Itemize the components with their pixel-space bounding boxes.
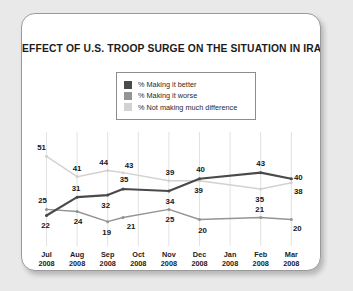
x-axis-tick-label: Nov2008 bbox=[161, 250, 177, 269]
x-axis-tick-label: Dec2008 bbox=[191, 250, 207, 269]
data-point-label: 31 bbox=[72, 184, 81, 193]
series-point bbox=[198, 218, 201, 221]
series-point bbox=[167, 179, 170, 182]
data-point-label: 22 bbox=[41, 220, 50, 229]
x-axis-tick-label: Feb2008 bbox=[253, 250, 269, 269]
x-tick-year: 2008 bbox=[222, 259, 238, 268]
series-point bbox=[45, 155, 48, 158]
series-point bbox=[122, 187, 125, 190]
data-point-label: 38 bbox=[294, 186, 303, 195]
data-point-label: 25 bbox=[166, 215, 175, 224]
data-point-label: 20 bbox=[293, 223, 302, 232]
x-tick-year: 2008 bbox=[100, 259, 116, 268]
data-point-label: 21 bbox=[255, 204, 264, 213]
series-point bbox=[76, 175, 79, 178]
data-point-label: 35 bbox=[120, 174, 129, 183]
data-point-label: 39 bbox=[166, 167, 175, 176]
data-point-label: 32 bbox=[101, 201, 110, 210]
series-point bbox=[76, 196, 79, 199]
x-axis-tick-label: Mar2008 bbox=[283, 250, 299, 269]
x-tick-month: Sep bbox=[100, 250, 116, 259]
series-point bbox=[45, 208, 48, 211]
x-axis-tick-label: Jul2008 bbox=[38, 250, 54, 269]
x-axis-tick-label: Aug2008 bbox=[69, 250, 85, 269]
data-point-label: 40 bbox=[294, 172, 303, 181]
x-tick-month: Feb bbox=[253, 250, 269, 259]
data-point-label: 40 bbox=[196, 164, 205, 173]
x-tick-month: Aug bbox=[69, 250, 85, 259]
data-point-label: 35 bbox=[255, 194, 264, 203]
x-axis-tick-label: Sep2008 bbox=[100, 250, 116, 269]
plot-area: 2231323534404340252419212520212051414443… bbox=[22, 14, 321, 271]
x-tick-year: 2008 bbox=[130, 259, 146, 268]
x-tick-month: Jan bbox=[222, 250, 238, 259]
data-point-label: 43 bbox=[256, 158, 265, 167]
data-point-label: 51 bbox=[37, 143, 46, 152]
series-point bbox=[290, 177, 293, 180]
series-point bbox=[106, 220, 109, 223]
data-point-label: 41 bbox=[73, 163, 82, 172]
x-tick-year: 2008 bbox=[38, 259, 54, 268]
x-axis-tick-label: Oct2008 bbox=[130, 250, 146, 269]
data-point-label: 44 bbox=[99, 157, 108, 166]
series-point bbox=[106, 169, 109, 172]
x-tick-year: 2008 bbox=[69, 259, 85, 268]
x-tick-month: Nov bbox=[161, 250, 177, 259]
series-point bbox=[259, 187, 262, 190]
series-point bbox=[259, 171, 262, 174]
x-tick-year: 2008 bbox=[161, 259, 177, 268]
series-point bbox=[290, 181, 293, 184]
x-tick-year: 2008 bbox=[253, 259, 269, 268]
data-point-label: 25 bbox=[38, 196, 47, 205]
series-point bbox=[45, 214, 48, 217]
data-point-label: 20 bbox=[198, 225, 207, 234]
series-point bbox=[167, 208, 170, 211]
series-point bbox=[76, 210, 79, 213]
data-point-label: 39 bbox=[194, 185, 203, 194]
x-axis-tick-label: Jan2008 bbox=[222, 250, 238, 269]
series-point bbox=[106, 194, 109, 197]
series-point bbox=[167, 190, 170, 193]
chart-card: EFFECT OF U.S. TROOP SURGE ON THE SITUAT… bbox=[21, 13, 321, 271]
data-point-label: 43 bbox=[125, 160, 134, 169]
x-tick-year: 2008 bbox=[283, 259, 299, 268]
x-tick-month: Oct bbox=[130, 250, 146, 259]
data-point-label: 21 bbox=[127, 221, 136, 230]
x-tick-month: Jul bbox=[38, 250, 54, 259]
data-point-label: 34 bbox=[166, 197, 175, 206]
series-point bbox=[290, 218, 293, 221]
x-tick-year: 2008 bbox=[191, 259, 207, 268]
series-point bbox=[198, 177, 201, 180]
series-point bbox=[259, 216, 262, 219]
chart-plot-svg bbox=[22, 14, 321, 271]
x-tick-month: Dec bbox=[191, 250, 207, 259]
x-tick-month: Mar bbox=[283, 250, 299, 259]
chart-gridlines bbox=[47, 132, 292, 246]
data-point-label: 24 bbox=[74, 217, 83, 226]
series-point bbox=[122, 216, 125, 219]
data-point-label: 19 bbox=[102, 227, 111, 236]
